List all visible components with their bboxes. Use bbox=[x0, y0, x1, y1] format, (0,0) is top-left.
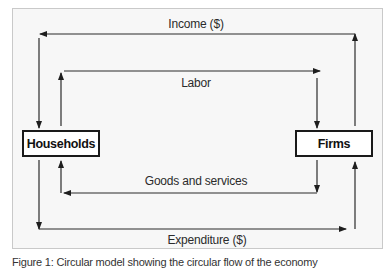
income-label: Income ($) bbox=[168, 17, 223, 31]
goods-label: Goods and services bbox=[145, 174, 247, 188]
labor-label: Labor bbox=[181, 76, 211, 90]
figure-caption: Figure 1: Circular model showing the cir… bbox=[12, 256, 318, 268]
expenditure-arrow bbox=[39, 160, 355, 229]
expenditure-label: Expenditure ($) bbox=[167, 233, 246, 247]
firms-node: Firms bbox=[295, 130, 373, 157]
households-node: Households bbox=[22, 130, 100, 157]
